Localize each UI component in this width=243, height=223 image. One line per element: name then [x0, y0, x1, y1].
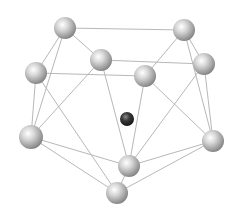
atom-E	[193, 53, 215, 75]
bond-G-J	[31, 137, 117, 193]
atom-H	[202, 130, 224, 152]
bond-F-H	[145, 76, 213, 141]
atom-C	[90, 49, 112, 71]
bond-A-B	[65, 28, 184, 30]
cluster-diagram-canvas	[0, 0, 243, 223]
bond-D-J	[36, 73, 117, 193]
bond-H-I	[129, 141, 213, 166]
cluster-diagram	[0, 0, 243, 223]
atom-D	[25, 62, 47, 84]
atom-G	[19, 125, 43, 149]
bond-E-H	[204, 64, 213, 141]
atom-J	[106, 182, 128, 204]
bond-C-E	[101, 60, 204, 64]
bond-D-F	[36, 73, 145, 76]
atom-I	[118, 155, 140, 177]
bond-G-I	[31, 137, 129, 166]
atom-F	[134, 65, 156, 87]
atom-B	[173, 19, 195, 41]
center-atom	[120, 112, 134, 126]
atom-A	[54, 17, 76, 39]
